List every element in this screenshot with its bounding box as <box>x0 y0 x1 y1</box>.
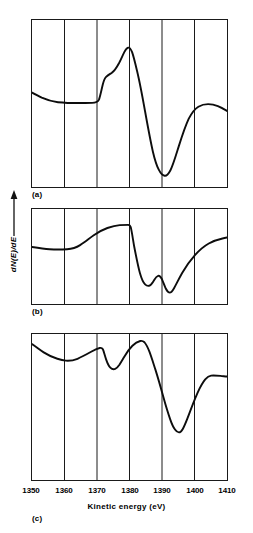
y-axis-label-block: dN(E)/dE <box>0 190 24 330</box>
panel-b-gridlines <box>65 209 195 304</box>
x-tick-1400: 1400 <box>186 486 203 495</box>
panel-c-svg <box>32 334 227 480</box>
panel-caption-b: (b) <box>32 307 43 316</box>
y-axis-label: dN(E)/dE <box>9 216 18 294</box>
panel-b-plot <box>31 208 228 305</box>
panel-caption-a: (a) <box>32 190 42 199</box>
x-tick-1350: 1350 <box>22 486 39 495</box>
x-tick-1360: 1360 <box>55 486 72 495</box>
x-tick-1390: 1390 <box>153 486 170 495</box>
x-axis-title: Kinetic energy (eV) <box>0 502 253 511</box>
panel-c-plot <box>31 333 228 481</box>
panel-a-plot <box>31 19 228 188</box>
x-tick-1410: 1410 <box>218 486 235 495</box>
panel-caption-c: (c) <box>32 514 42 523</box>
panel-a-svg <box>32 20 227 187</box>
x-tick-1370: 1370 <box>88 486 105 495</box>
auger-spectra-figure: dN(E)/dE (a) (b) <box>0 0 253 533</box>
x-tick-1380: 1380 <box>121 486 138 495</box>
x-axis-tick-row: 1350 1360 1370 1380 1390 1400 1410 <box>0 486 253 498</box>
panel-b-svg <box>32 209 227 304</box>
